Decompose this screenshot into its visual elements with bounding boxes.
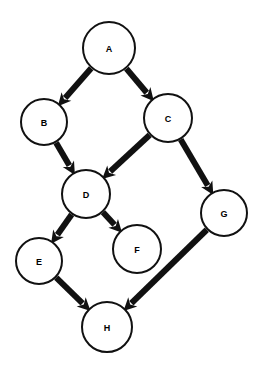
edge-A-C xyxy=(126,69,153,102)
edge-line-B-D xyxy=(56,143,69,166)
node-label-C: C xyxy=(165,114,172,124)
node-label-A: A xyxy=(106,44,113,54)
edge-line-A-B xyxy=(65,68,91,98)
node-C[interactable]: C xyxy=(144,94,192,142)
edge-line-C-G xyxy=(181,140,208,186)
edge-C-D xyxy=(102,135,150,179)
edge-line-D-E xyxy=(57,214,71,234)
edge-C-G xyxy=(181,140,214,195)
edge-line-C-D xyxy=(110,135,149,172)
node-A[interactable]: A xyxy=(83,22,135,74)
node-D[interactable]: D xyxy=(62,170,110,218)
edge-B-D xyxy=(56,143,75,175)
node-B[interactable]: B xyxy=(21,99,67,145)
node-G[interactable]: G xyxy=(201,190,247,236)
node-label-B: B xyxy=(41,118,48,128)
node-label-F: F xyxy=(134,245,140,255)
node-H[interactable]: H xyxy=(82,302,132,352)
edge-E-H xyxy=(56,278,90,311)
node-label-G: G xyxy=(220,209,227,219)
graph-diagram: ABCDEFGH xyxy=(0,0,266,371)
node-label-D: D xyxy=(83,190,90,200)
edge-line-E-H xyxy=(56,278,82,304)
node-label-H: H xyxy=(104,323,111,333)
graph-canvas: ABCDEFGH xyxy=(0,0,266,371)
edge-D-E xyxy=(51,214,72,243)
edge-line-A-C xyxy=(126,69,146,93)
edge-D-F xyxy=(103,212,122,233)
edge-line-D-F xyxy=(103,212,115,224)
edge-A-B xyxy=(58,68,91,106)
node-label-E: E xyxy=(36,257,42,267)
node-F[interactable]: F xyxy=(113,225,161,273)
node-E[interactable]: E xyxy=(16,238,62,284)
